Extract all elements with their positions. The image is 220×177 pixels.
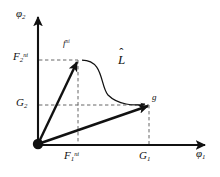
tick-label-f1-sup: ni <box>74 150 79 157</box>
vector-diagram-figure: φ2 φ1 F2ni G2 F1ni G1 fni g ˆL <box>0 0 220 177</box>
tick-label-f2-base: F <box>13 50 20 62</box>
tick-label-f1: F1ni <box>64 150 79 163</box>
point-label-g-base: g <box>152 92 157 102</box>
curve-label-hat-accent: ˆ <box>119 47 123 59</box>
point-label-f-sup: ni <box>66 38 70 44</box>
tick-label-g1: G1 <box>139 150 150 163</box>
tick-label-g2: G2 <box>16 97 27 110</box>
tick-label-g2-base: G <box>16 96 24 108</box>
tick-label-g1-base: G <box>139 149 147 161</box>
tick-label-f2: F2ni <box>13 51 28 64</box>
tick-label-f1-base: F <box>64 149 71 161</box>
curve-label-L-hat: ˆL <box>118 53 125 66</box>
point-label-f: fni <box>63 39 70 48</box>
origin-dot <box>33 139 43 149</box>
x-axis-label: φ1 <box>196 148 206 161</box>
y-axis-label: φ2 <box>16 8 26 21</box>
tick-label-f2-sup: ni <box>23 51 28 58</box>
tick-label-g2-sub: 2 <box>24 102 27 109</box>
curve-L-hat <box>82 60 145 105</box>
point-label-g: g <box>152 93 157 102</box>
y-axis-label-sub: 2 <box>22 13 25 20</box>
tick-label-g1-sub: 1 <box>147 155 150 162</box>
diagram-canvas <box>0 0 220 177</box>
x-axis-label-sub: 1 <box>202 153 205 160</box>
